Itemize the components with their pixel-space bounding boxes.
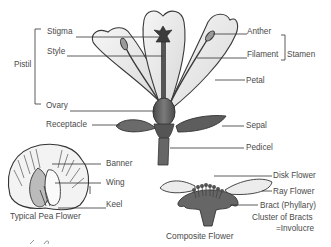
label-filament: Filament [247,50,278,59]
left-sepal [116,120,156,132]
left-ray-petal [160,181,195,193]
caption-pea-flower: Typical Pea Flower [10,212,81,221]
label-bract: Bract (Phyllary) [260,201,316,210]
label-wing: Wing [106,178,125,187]
label-petal: Petal [246,76,265,85]
style [161,38,166,108]
decorative-squiggle [30,240,49,244]
label-stamen: Stamen [287,50,315,59]
pedicel [158,138,169,165]
label-sepal: Sepal [246,121,267,130]
label-ovary: Ovary [46,101,68,110]
right-ray-petal [225,179,272,194]
flower-anatomy-diagram: Stigma Style Pistil Ovary Receptacle Ant… [0,0,331,247]
label-style: Style [47,47,65,56]
pea-flower-drawing [8,144,90,210]
label-receptacle: Receptacle [46,120,87,129]
label-disk-flower: Disk Flower [273,171,316,180]
label-involucre: =Involucre [276,224,314,233]
caption-composite-flower: Composite Flower [166,232,234,241]
involucre [178,190,238,226]
ovary [153,98,175,126]
label-stigma: Stigma [47,27,72,36]
label-pedicel: Pedicel [246,143,273,152]
label-pistil: Pistil [14,60,31,69]
right-sepal [176,115,226,132]
label-keel: Keel [106,200,122,209]
label-banner: Banner [106,159,132,168]
label-ray-flower: Ray Flower [273,187,314,196]
label-anther: Anther [247,27,271,36]
label-cluster-of-bracts: Cluster of Bracts [252,213,313,222]
